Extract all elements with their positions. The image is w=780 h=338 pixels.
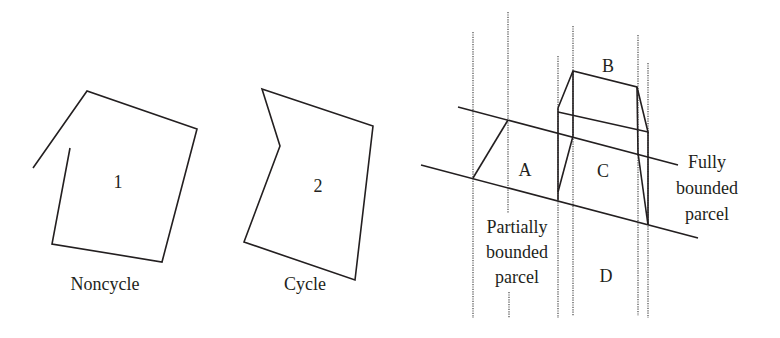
fully-bounded-line-3: parcel [685, 204, 729, 224]
partially-bounded-line-1: Partially [487, 217, 548, 237]
parcel-a-edge [473, 120, 508, 178]
partially-bounded-line-2: bounded [486, 242, 548, 262]
partially-bounded-annotation: Partially bounded parcel [486, 217, 548, 287]
cycle-polygon [244, 89, 373, 280]
region-label-1: 1 [114, 172, 123, 192]
parcel-label-d: D [600, 266, 613, 286]
fully-bounded-line-2: bounded [676, 178, 738, 198]
cycle-figure: 2 Cycle [244, 89, 373, 294]
noncycle-caption: Noncycle [71, 274, 140, 294]
noncycle-figure: 1 Noncycle [33, 91, 197, 294]
fully-bounded-annotation: Fully bounded parcel [676, 152, 738, 224]
diagram-canvas: 1 Noncycle 2 Cycle A B C D [0, 0, 780, 338]
partially-bounded-line-3: parcel [495, 267, 539, 287]
parcel-label-a: A [519, 160, 532, 180]
parcel-c-slant-right [638, 153, 648, 225]
parcel-b-outline [558, 71, 648, 132]
parcel-c-slant-left [558, 136, 573, 192]
parcel-label-b: B [602, 56, 614, 76]
fully-bounded-line-1: Fully [688, 152, 726, 172]
parcels-figure: A B C D Fully bounded parcel Partially b… [421, 12, 738, 318]
cycle-caption: Cycle [284, 274, 326, 294]
parcel-c-right-inner [637, 87, 638, 153]
region-label-2: 2 [314, 176, 323, 196]
parcel-label-c: C [597, 161, 609, 181]
lower-boundary-line [421, 165, 698, 238]
